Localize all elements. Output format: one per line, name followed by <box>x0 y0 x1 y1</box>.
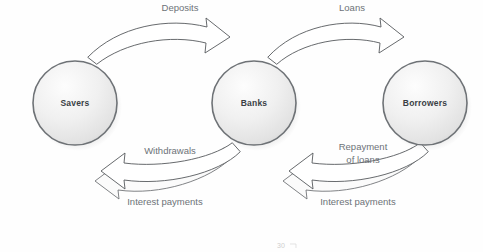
flow-label-deposits: Deposits <box>162 2 199 13</box>
savers-label: Savers <box>60 98 89 108</box>
flow-label-repayment-of-loans-line1: Repayment <box>339 141 388 152</box>
flow-arrow-deposits <box>88 18 230 64</box>
borrowers-label: Borrowers <box>403 98 447 108</box>
flow-label-loans: Loans <box>339 2 365 13</box>
node-banks[interactable]: Banks <box>212 61 301 151</box>
flow-label-interest-payments-right: Interest payments <box>320 196 396 207</box>
diagram-canvas: Savers Banks Borrowers Deposits Loans Wi… <box>0 0 483 252</box>
flow-arrow-loans <box>268 18 404 64</box>
banks-label: Banks <box>241 98 268 108</box>
node-borrowers[interactable]: Borrowers <box>383 61 472 151</box>
flow-label-repayment-of-loans-line2: of loans <box>346 154 380 165</box>
node-savers[interactable]: Savers <box>33 61 122 151</box>
flow-label-interest-payments-left: Interest payments <box>127 196 203 207</box>
financial-intermediation-diagram: Savers Banks Borrowers Deposits Loans Wi… <box>0 0 483 252</box>
page-number-label: 30 <box>277 242 285 249</box>
page-number-artifact: 30 <box>277 242 296 249</box>
flow-label-withdrawals: Withdrawals <box>144 145 196 156</box>
